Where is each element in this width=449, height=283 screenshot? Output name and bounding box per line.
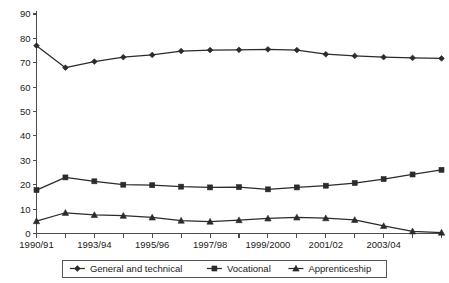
data-point-marker: [150, 183, 155, 188]
data-point-marker: [294, 185, 299, 190]
data-point-marker: [208, 185, 213, 190]
series-layer: [33, 43, 444, 235]
data-point-marker: [92, 179, 97, 184]
x-tick-label: 1993/94: [77, 239, 111, 250]
y-tick-label: 80: [20, 33, 31, 44]
x-axis: 1990/911993/941995/961997/981999/2000200…: [19, 234, 441, 251]
data-point-marker: [265, 46, 271, 52]
data-point-marker: [410, 172, 415, 177]
data-point-marker: [121, 182, 126, 187]
data-point-marker: [178, 48, 184, 54]
y-tick-label: 60: [20, 82, 31, 93]
series-general-and-technical: [34, 43, 445, 71]
data-point-marker: [34, 188, 39, 193]
data-point-marker: [439, 55, 445, 61]
data-point-marker: [63, 175, 68, 180]
y-tick-label: 20: [20, 179, 31, 190]
x-tick-label: 1995/96: [135, 239, 169, 250]
data-point-marker: [381, 54, 387, 60]
data-point-marker: [439, 167, 444, 172]
x-tick-label: 2001/02: [309, 239, 343, 250]
data-point-marker: [294, 47, 300, 53]
y-tick-label: 70: [20, 57, 31, 68]
data-point-marker: [149, 52, 155, 58]
data-point-marker: [207, 47, 213, 53]
legend-label: Vocational: [227, 263, 271, 274]
x-tick-label: 2003/04: [366, 239, 400, 250]
y-tick-label: 10: [20, 204, 31, 215]
series-vocational: [34, 167, 444, 192]
chart-canvas: 0102030405060708090 1990/911993/941995/9…: [0, 0, 449, 283]
y-tick-label: 0: [25, 228, 30, 239]
data-point-marker: [265, 187, 270, 192]
data-point-marker: [212, 266, 217, 271]
x-tick-label: 1990/91: [19, 239, 53, 250]
y-tick-label: 90: [20, 8, 31, 19]
y-tick-label: 30: [20, 155, 31, 166]
legend-label: Apprenticeship: [308, 263, 371, 274]
series-apprenticeship: [33, 210, 444, 236]
y-axis: 0102030405060708090: [20, 8, 37, 239]
data-point-marker: [381, 177, 386, 182]
legend-label: General and technical: [90, 263, 182, 274]
data-point-marker: [410, 55, 416, 61]
data-point-marker: [120, 54, 126, 60]
data-point-marker: [91, 59, 97, 65]
line-chart: 0102030405060708090 1990/911993/941995/9…: [0, 0, 449, 283]
data-point-marker: [179, 184, 184, 189]
chart-legend: General and technicalVocationalApprentic…: [63, 260, 386, 277]
data-point-marker: [352, 53, 358, 59]
data-point-marker: [237, 185, 242, 190]
x-tick-label: 1997/98: [193, 239, 227, 250]
data-point-marker: [323, 183, 328, 188]
y-tick-label: 50: [20, 106, 31, 117]
data-point-marker: [352, 181, 357, 186]
x-tick-label: 1999/2000: [245, 239, 290, 250]
data-point-marker: [236, 47, 242, 53]
data-point-marker: [323, 51, 329, 57]
y-tick-label: 40: [20, 130, 31, 141]
